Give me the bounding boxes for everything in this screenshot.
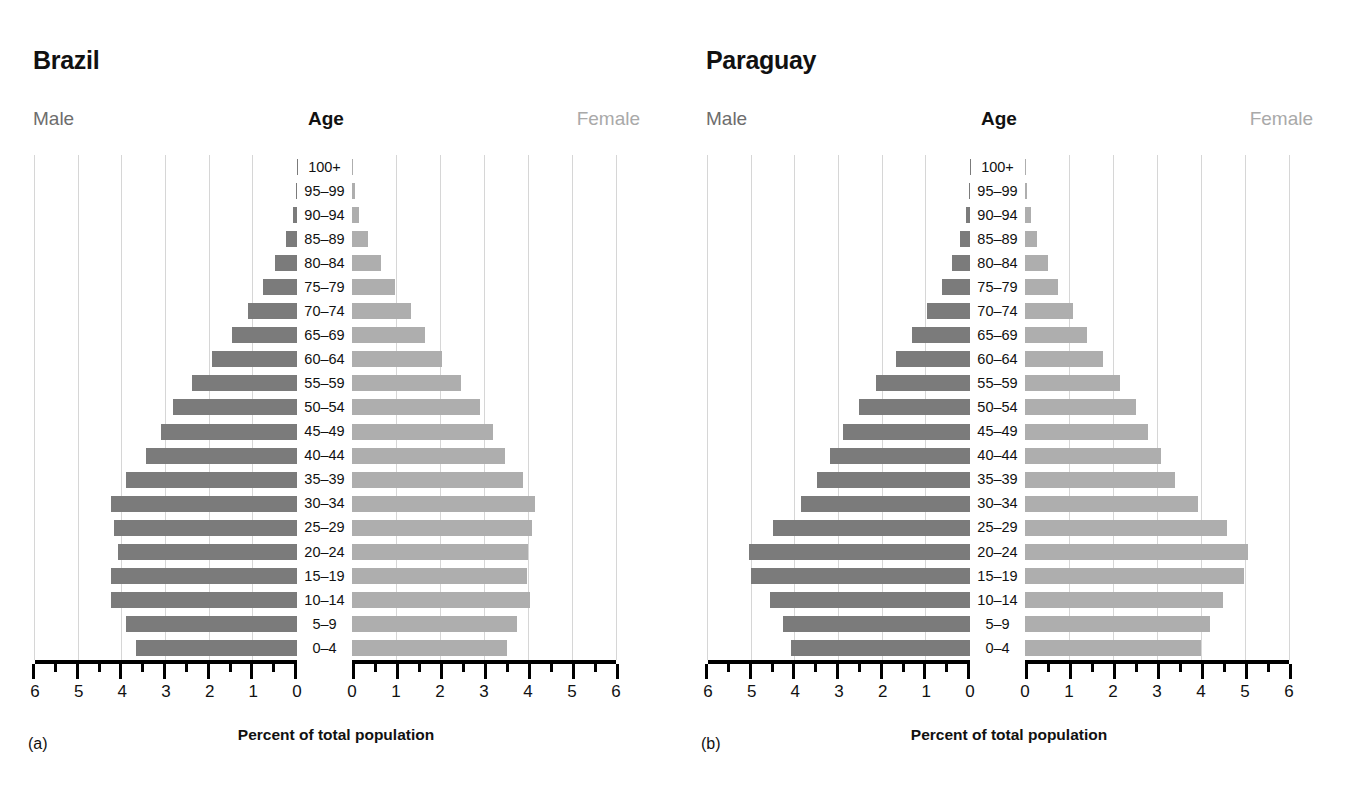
bar-female (1025, 568, 1244, 584)
bar-male (952, 255, 970, 271)
tick-minor-5.5 (1267, 664, 1270, 672)
bar-male (960, 231, 970, 247)
bar-row (352, 540, 616, 564)
tick-label: 1 (249, 682, 258, 702)
bar-row (352, 395, 616, 419)
legend-label-female: Female (577, 108, 640, 130)
bar-row (352, 155, 616, 179)
bar-row (1025, 299, 1289, 323)
bar-male (111, 496, 297, 512)
age-group-label: 10–14 (302, 593, 346, 608)
tick-minor-4.5 (550, 664, 553, 672)
age-group-label: 30–34 (302, 496, 346, 511)
tick-label: 6 (611, 682, 620, 702)
bar-row (1025, 636, 1289, 660)
tick-major-6 (616, 664, 619, 679)
bar-male (942, 279, 970, 295)
x-axis-label: Percent of total population (911, 726, 1107, 744)
bar-male (136, 640, 297, 656)
age-group-label: 100+ (306, 160, 343, 175)
bar-row (352, 275, 616, 299)
bar-male (770, 592, 970, 608)
bar-male (173, 399, 297, 415)
bar-female (352, 327, 425, 343)
age-group-label: 45–49 (302, 424, 346, 439)
bar-female (1025, 544, 1248, 560)
bar-female (1025, 255, 1048, 271)
age-group-label: 40–44 (975, 448, 1019, 463)
age-group-label: 80–84 (975, 256, 1019, 271)
bar-female (352, 183, 355, 199)
age-row: 35–39 (297, 468, 352, 492)
tick-label: 2 (435, 682, 444, 702)
bar-row (1025, 203, 1289, 227)
bar-male (146, 448, 297, 464)
bar-female (1025, 351, 1103, 367)
tick-label: 3 (479, 682, 488, 702)
age-group-label: 95–99 (302, 184, 346, 199)
axis-line (35, 660, 297, 664)
bar-male (286, 231, 297, 247)
tick-major-4 (528, 664, 531, 679)
age-group-label: 15–19 (975, 569, 1019, 584)
bar-female (352, 279, 395, 295)
age-group-label: 80–84 (302, 256, 346, 271)
bar-row (708, 299, 970, 323)
bar-male (192, 375, 297, 391)
bar-male (161, 424, 297, 440)
age-row: 20–24 (297, 540, 352, 564)
bar-male (876, 375, 970, 391)
tick-major-3 (484, 664, 487, 679)
bar-row (352, 588, 616, 612)
bar-row (1025, 612, 1289, 636)
male-bars (708, 155, 970, 660)
tick-minor-0.5 (1047, 664, 1050, 672)
bar-row (35, 564, 297, 588)
age-group-label: 45–49 (975, 424, 1019, 439)
bar-female (352, 424, 493, 440)
bar-row (1025, 588, 1289, 612)
female-bars (352, 155, 616, 660)
bar-male (817, 472, 970, 488)
age-group-label: 70–74 (302, 304, 346, 319)
age-row: 95–99 (297, 179, 352, 203)
age-row: 50–54 (297, 395, 352, 419)
bar-male (896, 351, 970, 367)
age-group-label: 75–79 (975, 280, 1019, 295)
tick-minor-3.5 (141, 664, 144, 672)
age-group-label: 0–4 (983, 641, 1011, 656)
tick-major-1 (396, 664, 399, 679)
bar-row (708, 588, 970, 612)
age-row: 100+ (297, 155, 352, 179)
bar-row (1025, 371, 1289, 395)
bar-male (927, 303, 970, 319)
age-row: 15–19 (297, 564, 352, 588)
tick-label: 2 (205, 682, 214, 702)
bar-row (35, 492, 297, 516)
bar-male (126, 616, 297, 632)
tick-minor-2.5 (1135, 664, 1138, 672)
tick-label: 1 (1064, 682, 1073, 702)
bar-male (912, 327, 970, 343)
tick-label: 3 (1152, 682, 1161, 702)
bar-female (352, 616, 517, 632)
age-group-label: 5–9 (310, 617, 338, 632)
bar-row (35, 203, 297, 227)
tick-major-0 (352, 664, 355, 679)
age-row: 55–59 (297, 371, 352, 395)
bar-row (352, 516, 616, 540)
tick-label: 3 (161, 682, 170, 702)
tick-major-5 (1245, 664, 1248, 679)
tick-major-5 (749, 664, 752, 679)
age-group-label: 50–54 (302, 400, 346, 415)
age-group-label: 95–99 (975, 184, 1019, 199)
bar-female (1025, 327, 1087, 343)
tick-minor-4.5 (98, 664, 101, 672)
bar-female (352, 303, 411, 319)
age-row: 30–34 (297, 492, 352, 516)
bar-row (35, 371, 297, 395)
bar-row (708, 155, 970, 179)
bar-row (352, 636, 616, 660)
bar-female (1025, 496, 1198, 512)
bar-male (830, 448, 970, 464)
